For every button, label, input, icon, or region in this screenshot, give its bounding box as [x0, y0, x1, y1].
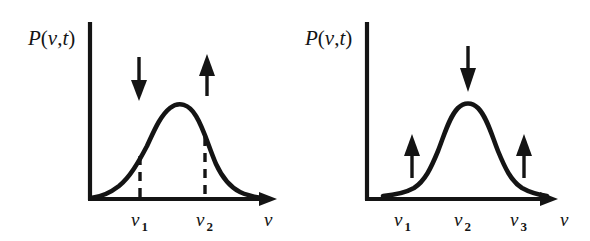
figure-root: P(v,t) v1 v2 v P(v,t)	[0, 0, 590, 241]
y-axis-label-left: P(v,t)	[27, 26, 75, 50]
tick-label-v2-right: v2	[454, 209, 471, 234]
up-arrow-at-v1	[404, 134, 420, 178]
tick-label-v1-left: v1	[131, 209, 148, 234]
tick-label-v2-left: v2	[196, 209, 213, 234]
down-arrow-at-v1	[131, 57, 147, 101]
panel-right-peaked-distribution: P(v,t) v1 v2 v3 v	[295, 0, 590, 241]
distribution-curve-left	[91, 104, 262, 198]
x-axis-label-left: v	[264, 209, 273, 230]
up-arrow-at-v3	[516, 134, 532, 178]
y-axis-label-right: P(v,t)	[304, 26, 352, 50]
tick-label-v1-right: v1	[394, 209, 411, 234]
up-arrow-at-v2	[199, 54, 215, 96]
down-arrow-at-v2	[460, 46, 476, 92]
tick-label-v3-right: v3	[510, 209, 527, 234]
panel-left-broad-distribution: P(v,t) v1 v2 v	[0, 0, 295, 241]
x-axis-label-right: v	[560, 209, 569, 230]
